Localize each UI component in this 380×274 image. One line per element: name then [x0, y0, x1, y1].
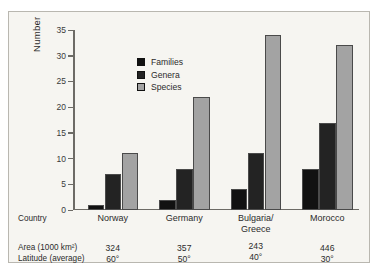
area-value: 446 — [290, 243, 364, 253]
bar-group — [88, 30, 139, 210]
tick-mark — [68, 158, 73, 159]
area-value: 324 — [76, 243, 150, 253]
country-label: Norway — [76, 213, 150, 224]
tick-mark — [68, 184, 73, 185]
bar-group — [302, 30, 353, 210]
legend-label: Species — [151, 81, 182, 94]
country-label-line2: Greece — [219, 224, 293, 235]
tick-mark — [68, 107, 73, 108]
tick-label: 15 — [57, 128, 66, 138]
area-value: 357 — [147, 243, 221, 253]
tick-label: 10 — [57, 154, 66, 164]
bar-species — [265, 35, 282, 210]
legend-swatch-icon — [137, 71, 145, 79]
chart-legend: FamiliesGeneraSpecies — [137, 56, 183, 94]
bar-genera — [105, 174, 122, 210]
tick-label: 35 — [57, 25, 66, 35]
legend-swatch-icon — [137, 58, 145, 66]
latitude-value: 50° — [147, 254, 221, 264]
legend-label: Families — [151, 56, 183, 69]
plot-area: 05101520253035 — [73, 30, 359, 210]
bar-species — [193, 97, 210, 210]
tick-label: 20 — [57, 102, 66, 112]
bar-families — [302, 169, 319, 210]
y-axis-line — [73, 30, 75, 210]
country-label: Morocco — [290, 213, 364, 224]
legend-item-genera: Genera — [137, 69, 183, 82]
y-axis-title: Number — [31, 16, 42, 52]
tick-mark — [68, 81, 73, 82]
area-value: 243 — [219, 241, 293, 251]
bar-genera — [248, 153, 265, 210]
country-label: Germany — [147, 213, 221, 224]
latitude-value: 60° — [76, 254, 150, 264]
bar-group — [231, 30, 282, 210]
tick-label: 30 — [57, 51, 66, 61]
bar-species — [336, 45, 353, 210]
legend-swatch-icon — [137, 83, 145, 91]
legend-item-species: Species — [137, 81, 183, 94]
tick-mark — [68, 210, 73, 211]
bar-families — [159, 200, 176, 210]
tick-mark — [68, 30, 73, 31]
tick-mark — [68, 132, 73, 133]
row-label-area: Area (1000 km²) — [18, 243, 77, 252]
bar-families — [88, 205, 105, 210]
row-label-latitude: Latitude (average) — [18, 254, 84, 263]
bar-genera — [176, 169, 193, 210]
legend-label: Genera — [151, 69, 180, 82]
chart-frame: Number 05101520253035 FamiliesGeneraSpec… — [8, 11, 370, 263]
country-label: Bulgaria/Greece — [219, 213, 293, 234]
tick-label: 0 — [61, 205, 66, 215]
tick-label: 25 — [57, 76, 66, 86]
bar-families — [231, 189, 248, 210]
bar-genera — [319, 123, 336, 210]
bar-species — [122, 153, 139, 210]
tick-mark — [68, 55, 73, 56]
row-label-country: Country — [18, 214, 47, 223]
latitude-value: 40° — [219, 252, 293, 262]
tick-label: 5 — [61, 179, 66, 189]
latitude-value: 30° — [290, 254, 364, 264]
legend-item-families: Families — [137, 56, 183, 69]
